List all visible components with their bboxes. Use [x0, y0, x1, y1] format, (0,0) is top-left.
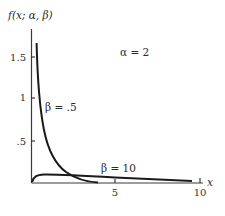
x-tick-label-5: 5	[112, 187, 118, 198]
y-axis-title: f(x; α, β)	[7, 9, 53, 21]
x-axis-title: x	[207, 176, 213, 188]
chart-canvas: 1.5 1 .5 5 10 f(x; α, β) x α = 2 β = .5 …	[0, 0, 225, 216]
x-tick-label-10: 10	[194, 187, 207, 198]
gamma-density-chart: 1.5 1 .5 5 10 f(x; α, β) x α = 2 β = .5 …	[0, 0, 225, 216]
curve-beta-10	[32, 174, 192, 182]
y-tick-label-0-5: .5	[16, 136, 26, 147]
alpha-annotation: α = 2	[120, 46, 149, 58]
series-label-beta-0-5: β = .5	[45, 101, 77, 113]
y-tick-label-1-5: 1.5	[10, 52, 26, 63]
series-label-beta-10: β = 10	[101, 162, 136, 174]
y-tick-label-1: 1	[20, 92, 26, 103]
